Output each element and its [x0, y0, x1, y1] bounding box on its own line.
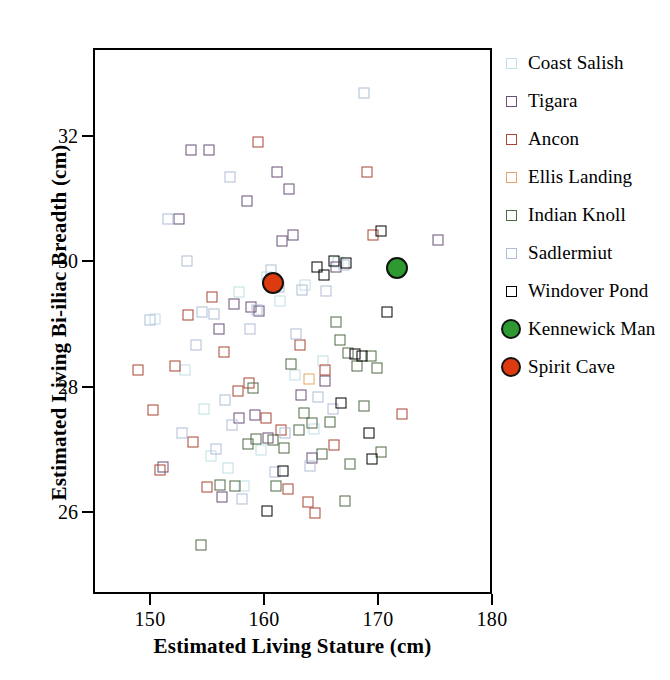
legend-circle-icon: [501, 319, 521, 339]
legend: Coast SalishTigaraAnconEllis LandingIndi…: [500, 44, 668, 386]
legend-circle-icon: [501, 357, 521, 377]
y-tick-mark: [82, 386, 93, 388]
legend-item-ancon[interactable]: Ancon: [500, 120, 668, 158]
y-tick-mark: [82, 260, 93, 262]
legend-square-icon: [506, 58, 517, 69]
y-axis-title: Estimated Living Bi-iliac Breadth (cm): [47, 50, 72, 596]
data-point-kennewick-man: [386, 257, 408, 279]
legend-swatch-wrap: [500, 357, 522, 377]
legend-square-icon: [506, 210, 517, 221]
legend-swatch-wrap: [500, 248, 522, 259]
legend-label: Windover Pond: [528, 280, 648, 302]
legend-square-icon: [506, 248, 517, 259]
y-tick-mark: [82, 135, 93, 137]
legend-square-icon: [506, 96, 517, 107]
legend-swatch-wrap: [500, 286, 522, 297]
legend-item-tigara[interactable]: Tigara: [500, 82, 668, 120]
legend-item-spirit-cave[interactable]: Spirit Cave: [500, 348, 668, 386]
legend-label: Ellis Landing: [528, 166, 632, 188]
legend-label: Indian Knoll: [528, 204, 626, 226]
legend-square-icon: [506, 286, 517, 297]
legend-label: Spirit Cave: [528, 356, 615, 378]
legend-item-kennewick-man[interactable]: Kennewick Man: [500, 310, 668, 348]
legend-swatch-wrap: [500, 134, 522, 145]
legend-swatch-wrap: [500, 172, 522, 183]
legend-item-sadlermiut[interactable]: Sadlermiut: [500, 234, 668, 272]
data-point-spirit-cave: [262, 272, 284, 294]
legend-swatch-wrap: [500, 210, 522, 221]
legend-square-icon: [506, 172, 517, 183]
legend-label: Sadlermiut: [528, 242, 612, 264]
legend-item-indian-knoll[interactable]: Indian Knoll: [500, 196, 668, 234]
scatter-plot-figure: 150160170180 26283032 Estimated Living S…: [0, 0, 670, 680]
y-tick-mark: [82, 511, 93, 513]
x-axis-title: Estimated Living Stature (cm): [93, 634, 492, 659]
legend-swatch-wrap: [500, 319, 522, 339]
legend-item-ellis-landing[interactable]: Ellis Landing: [500, 158, 668, 196]
legend-swatch-wrap: [500, 58, 522, 69]
legend-item-windover-pond[interactable]: Windover Pond: [500, 272, 668, 310]
legend-item-coast-salish[interactable]: Coast Salish: [500, 44, 668, 82]
legend-label: Kennewick Man: [528, 318, 655, 340]
legend-label: Tigara: [528, 90, 578, 112]
legend-swatch-wrap: [500, 96, 522, 107]
legend-label: Coast Salish: [528, 52, 624, 74]
legend-label: Ancon: [528, 128, 579, 150]
legend-square-icon: [506, 134, 517, 145]
